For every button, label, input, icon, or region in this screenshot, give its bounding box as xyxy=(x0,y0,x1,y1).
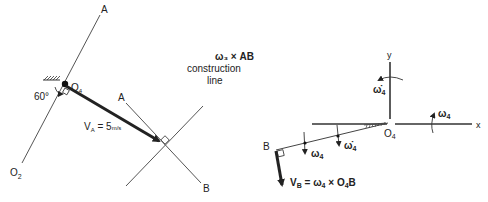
link-o4-b-line xyxy=(276,123,388,150)
construction-line xyxy=(126,106,203,186)
y-axis-label: y xyxy=(387,50,392,60)
left-velocity-diagram: A O2 O4 60° VA = 5m/s A B ω₃ × AB const xyxy=(10,4,254,194)
construction-title: ω₃ × AB xyxy=(215,51,254,62)
omega-right-label: ω4 xyxy=(438,108,450,120)
omega-marker-label: ω4 xyxy=(311,148,323,160)
cross-b-label: B xyxy=(203,183,210,194)
alpha-top-label: ω̇4 xyxy=(373,84,385,96)
cross-a-label: A xyxy=(118,92,125,103)
angle-label: 60° xyxy=(34,91,49,102)
right-link-diagram: y x O4 ω̇4 ω4 ω4 ω̇4 xyxy=(263,50,481,189)
marker-dot-icon xyxy=(303,141,306,144)
line-a-top-label: A xyxy=(101,4,108,15)
construction-text-1: construction xyxy=(187,63,241,74)
velocity-b-equation: VB = ω4 × O4B xyxy=(290,177,356,189)
velocity-a-label: VA = 5m/s xyxy=(84,121,121,133)
construction-text-2: line xyxy=(207,75,223,86)
kinematics-diagram: A O2 O4 60° VA = 5m/s A B ω₃ × AB const xyxy=(0,0,488,202)
angular-acceleration-arrow-icon xyxy=(379,77,403,80)
pivot-hatch-icon xyxy=(364,122,386,128)
point-b-label: B xyxy=(263,141,270,152)
ground-hatch-icon xyxy=(43,76,60,80)
velocity-a-arrow xyxy=(66,86,159,141)
x-axis-label: x xyxy=(476,120,481,130)
o2-label: O2 xyxy=(10,167,22,180)
alpha-marker-label: ω̇4 xyxy=(344,140,356,152)
marker-dot-icon xyxy=(336,134,339,137)
link-o2-a-line xyxy=(22,15,100,163)
origin-label: O4 xyxy=(384,128,396,140)
